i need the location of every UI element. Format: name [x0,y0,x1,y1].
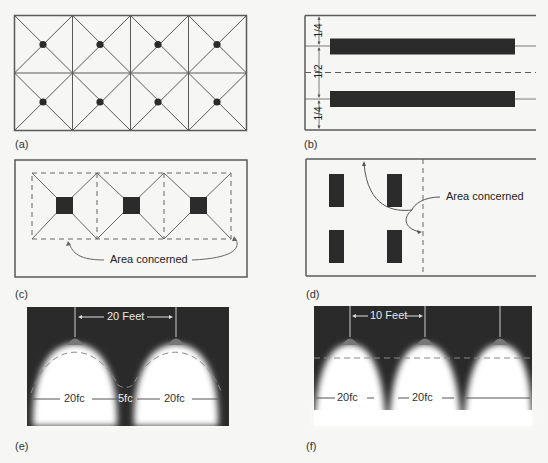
level-label-f-2: 20fc [412,391,433,403]
level-label-e-1: 20fc [64,392,85,404]
area-concerned-label-d: Area concerned [446,190,524,202]
caption-a: (a) [15,138,28,150]
caption-b: (b) [304,138,317,150]
level-label-e-3: 20fc [164,392,185,404]
spacing-label-e: 20 Feet [107,310,144,322]
caption-c: (c) [15,288,28,300]
light-distribution-20ft [0,300,274,463]
panel-c: Area concerned (c) [0,150,274,300]
caption-d: (d) [306,288,319,300]
panel-b: 1/4 1/2 1/4 (b) [274,0,548,150]
caption-e: (e) [15,440,28,452]
panel-d: Area concerned (d) [274,150,548,300]
dim-middle: 1/2 [313,59,324,85]
panel-e: 20 Feet 20fc 5fc 20fc (e) [0,300,274,463]
light-distribution-10ft [274,300,548,463]
grid-layout-diagram [0,0,274,150]
dim-bottom: 1/4 [313,101,324,127]
caption-f: (f) [306,440,316,452]
spacing-label-f: 10 Feet [370,309,407,321]
fixture-row-1 [330,39,515,55]
fixture-row-2 [330,91,515,107]
panel-a: (a) [0,0,274,150]
wall-fixture-diagram [274,150,548,300]
level-label-e-2: 5fc [118,392,133,404]
panel-f: 10 Feet 20fc 20fc (f) [274,300,548,463]
level-label-f-1: 20fc [337,391,358,403]
dim-top: 1/4 [313,18,324,44]
area-concerned-label-c: Area concerned [110,253,188,265]
point-fixture-diagram [0,150,274,300]
